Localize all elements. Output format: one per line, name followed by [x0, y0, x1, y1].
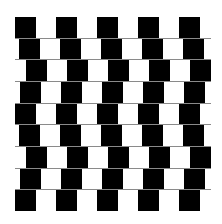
black-tile [184, 82, 205, 103]
white-tile [159, 104, 180, 125]
tile-row [15, 190, 211, 211]
white-tile [204, 39, 212, 60]
white-tile [164, 169, 185, 190]
black-tile [184, 169, 205, 190]
black-tile [142, 39, 163, 60]
white-tile [47, 60, 68, 81]
black-tile [19, 125, 40, 146]
black-tile [60, 125, 81, 146]
black-tile [190, 60, 211, 81]
white-tile [129, 147, 150, 168]
black-tile [67, 60, 88, 81]
white-tile [122, 39, 143, 60]
black-tile [97, 17, 118, 38]
black-tile [61, 169, 82, 190]
white-tile [164, 82, 185, 103]
white-tile [129, 60, 150, 81]
white-tile [170, 147, 191, 168]
black-tile [101, 39, 122, 60]
tile-row [15, 60, 211, 81]
white-tile [15, 60, 26, 81]
white-tile [200, 104, 212, 125]
black-tile [149, 147, 170, 168]
white-tile [77, 190, 98, 211]
black-tile [20, 169, 41, 190]
black-tile [190, 147, 211, 168]
white-tile [81, 125, 102, 146]
white-tile [204, 125, 212, 146]
white-tile [82, 82, 103, 103]
black-tile [26, 147, 47, 168]
white-tile [40, 39, 61, 60]
black-tile [102, 169, 123, 190]
black-tile [183, 125, 204, 146]
black-tile [101, 125, 122, 146]
black-tile [138, 17, 159, 38]
black-tile [149, 60, 170, 81]
black-tile [143, 82, 164, 103]
black-tile [183, 39, 204, 60]
black-tile [179, 190, 200, 211]
white-tile [159, 190, 180, 211]
black-tile [15, 17, 36, 38]
white-tile [163, 125, 184, 146]
white-tile [41, 169, 62, 190]
white-tile [211, 147, 212, 168]
tile-row [15, 169, 211, 190]
black-tile [56, 190, 77, 211]
white-tile [163, 39, 184, 60]
tile-row [15, 147, 211, 168]
white-tile [170, 60, 191, 81]
white-tile [77, 104, 98, 125]
white-tile [77, 17, 98, 38]
cafe-wall-illusion [15, 17, 211, 212]
black-tile [56, 104, 77, 125]
black-tile [97, 104, 118, 125]
white-tile [118, 104, 139, 125]
black-tile [60, 39, 81, 60]
black-tile [138, 104, 159, 125]
black-tile [142, 125, 163, 146]
white-tile [40, 125, 61, 146]
black-tile [20, 82, 41, 103]
tile-row [15, 82, 211, 103]
black-tile [19, 39, 40, 60]
black-tile [15, 190, 36, 211]
white-tile [88, 60, 109, 81]
black-tile [108, 147, 129, 168]
white-tile [81, 39, 102, 60]
white-tile [211, 60, 212, 81]
white-tile [15, 147, 26, 168]
white-tile [36, 104, 57, 125]
black-tile [61, 82, 82, 103]
white-tile [88, 147, 109, 168]
black-tile [179, 17, 200, 38]
white-tile [122, 125, 143, 146]
white-tile [82, 169, 103, 190]
white-tile [205, 82, 212, 103]
tile-row [15, 39, 211, 60]
black-tile [108, 60, 129, 81]
tile-row [15, 17, 211, 38]
white-tile [123, 82, 144, 103]
white-tile [123, 169, 144, 190]
tile-row [15, 125, 211, 146]
black-tile [179, 104, 200, 125]
white-tile [200, 190, 212, 211]
black-tile [138, 190, 159, 211]
white-tile [159, 17, 180, 38]
white-tile [200, 17, 212, 38]
tile-row [15, 104, 211, 125]
white-tile [41, 82, 62, 103]
black-tile [143, 169, 164, 190]
black-tile [15, 104, 36, 125]
black-tile [26, 60, 47, 81]
white-tile [118, 17, 139, 38]
white-tile [205, 169, 212, 190]
white-tile [36, 17, 57, 38]
black-tile [67, 147, 88, 168]
black-tile [56, 17, 77, 38]
black-tile [97, 190, 118, 211]
white-tile [47, 147, 68, 168]
white-tile [36, 190, 57, 211]
